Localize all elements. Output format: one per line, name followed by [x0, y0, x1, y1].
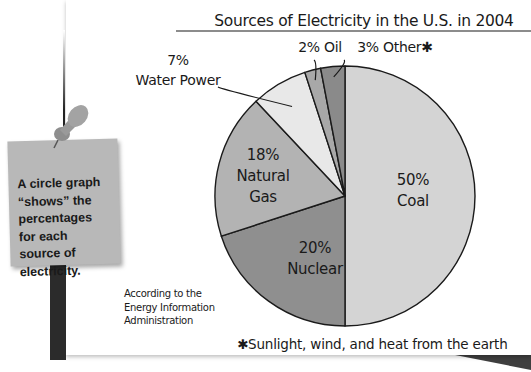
chart-title: Sources of Electricity in the U.S. in 20…	[214, 12, 513, 30]
data-label-oil: 2% Oil	[298, 39, 342, 55]
data-label-natural-gas: Gas	[249, 188, 277, 206]
data-label-nuclear: Nuclear	[287, 260, 344, 278]
source-note: According to the Energy Information Admi…	[124, 287, 215, 328]
data-label-natural-gas: 18%	[247, 146, 279, 164]
data-label-other: 3% Other✱	[357, 39, 432, 55]
footnote: ✱Sunlight, wind, and heat from the earth	[237, 336, 508, 352]
data-label-water-power: 7%	[167, 52, 189, 68]
data-label-coal: 50%	[397, 171, 429, 189]
pie-chart: Sources of Electricity in the U.S. in 20…	[0, 0, 531, 372]
data-label-water-power: Water Power	[136, 72, 221, 88]
data-label-natural-gas: Natural	[236, 167, 289, 185]
data-label-nuclear: 20%	[299, 239, 331, 257]
data-label-coal: Coal	[397, 192, 429, 210]
